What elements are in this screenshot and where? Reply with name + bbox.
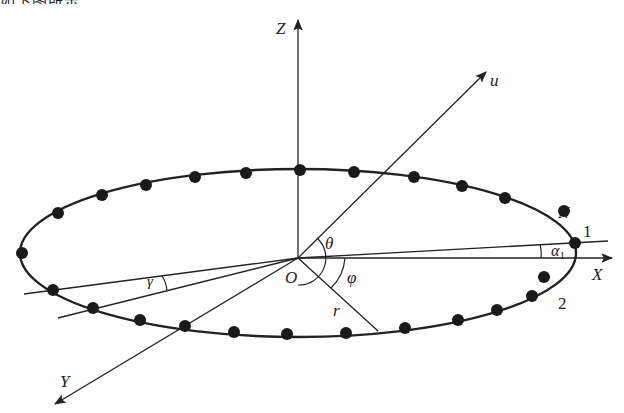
u-vector	[298, 72, 486, 258]
array-geometry-diagram: Z u θ O φ r γ N 1 α1 X 2 Y	[0, 0, 624, 413]
origin-label: O	[285, 268, 297, 287]
element-1-label: 1	[583, 222, 592, 241]
x-axis-label: X	[591, 265, 603, 284]
gamma-label: γ	[147, 273, 154, 289]
z-axis-label: Z	[276, 19, 286, 38]
theta-label: θ	[325, 234, 333, 253]
element-2-label: 2	[558, 294, 567, 313]
alpha-arc	[540, 244, 541, 258]
u-vector-label: u	[490, 71, 499, 90]
gamma-arc	[162, 276, 167, 291]
y-axis-label: Y	[60, 372, 71, 391]
phi-arc	[331, 258, 345, 288]
array-element-1	[569, 237, 581, 249]
phi-label: φ	[347, 268, 356, 287]
alpha-label: α1	[551, 242, 565, 261]
y-axis	[55, 258, 298, 404]
element-n-label: N	[557, 203, 571, 222]
alpha-subscript: 1	[559, 249, 565, 261]
radius-label: r	[333, 301, 340, 320]
gamma-line-upper	[24, 258, 298, 294]
radius-line	[298, 258, 378, 331]
